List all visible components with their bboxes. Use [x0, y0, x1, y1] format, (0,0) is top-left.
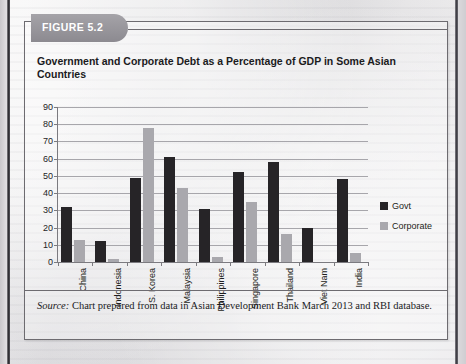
y-axis-tick-label: 80: [43, 119, 53, 129]
x-axis-tick: [161, 262, 162, 266]
figure-tab-rule: [128, 29, 448, 30]
bar-govt: [268, 162, 279, 262]
bar-govt: [233, 172, 244, 262]
bar-corporate: [350, 253, 361, 262]
source-label: Source:: [37, 300, 69, 311]
x-axis-tick: [92, 262, 93, 266]
bar-corporate: [212, 257, 223, 262]
x-axis-tick: [196, 262, 197, 266]
bar-group: China: [58, 107, 92, 262]
bar-govt: [164, 157, 175, 262]
source-divider: [25, 290, 447, 291]
legend-label: Corporate: [392, 221, 432, 231]
y-axis-tick-label: 0: [48, 257, 53, 267]
source-text: Chart prepared from data in Asian Develo…: [69, 300, 432, 311]
x-axis-label: S. Korea: [147, 268, 157, 303]
x-axis-label: Thailand: [285, 268, 295, 303]
bar-corporate: [246, 202, 257, 262]
bar-group: S. Korea: [127, 107, 161, 262]
x-axis-tick: [230, 262, 231, 266]
legend-label: Govt: [392, 201, 411, 211]
legend-item: Corporate: [380, 221, 432, 231]
x-axis-tick: [334, 262, 335, 266]
y-axis-tick-label: 30: [43, 205, 53, 215]
legend-item: Govt: [380, 201, 432, 211]
bar-corporate: [74, 240, 85, 262]
bar-group: Viet Nam: [299, 107, 333, 262]
bar-corporate: [177, 188, 188, 262]
book-gutter-shadow: [7, 0, 10, 364]
x-axis-tick: [299, 262, 300, 266]
bar-govt: [61, 207, 72, 262]
y-axis-tick-label: 10: [43, 240, 53, 250]
bar-corporate: [108, 259, 119, 262]
bar-group: Indonesia: [92, 107, 126, 262]
x-axis-tick: [368, 262, 369, 266]
y-axis-tick-label: 50: [43, 171, 53, 181]
bar-group: Philippines: [196, 107, 230, 262]
x-axis-label: India: [354, 268, 364, 288]
bar-group: Malaysia: [161, 107, 195, 262]
book-gutter-light: [0, 0, 7, 364]
chart-legend: GovtCorporate: [380, 201, 432, 241]
page-right-margin: [458, 0, 466, 364]
figure-number-label: FIGURE 5.2: [42, 21, 103, 33]
x-axis-tick: [127, 262, 128, 266]
y-axis-tick-label: 70: [43, 136, 53, 146]
bar-govt: [95, 241, 106, 262]
y-axis-tick-label: 40: [43, 188, 53, 198]
x-axis-tick: [265, 262, 266, 266]
book-page: FIGURE 5.2 Government and Corporate Debt…: [0, 0, 466, 364]
bar-corporate: [143, 128, 154, 262]
x-axis-label: China: [78, 268, 88, 292]
bar-group: Thailand: [265, 107, 299, 262]
bar-govt: [337, 179, 348, 262]
y-axis-tick-label: 90: [43, 102, 53, 112]
bar-group: India: [334, 107, 368, 262]
chart-plot-area: 0102030405060708090ChinaIndonesiaS. Kore…: [57, 107, 368, 263]
bar-corporate: [281, 234, 292, 262]
bar-govt: [199, 209, 210, 262]
bar-govt: [302, 228, 313, 262]
legend-swatch-govt: [380, 202, 388, 210]
source-note: Source: Chart prepared from data in Asia…: [37, 299, 437, 312]
bar-govt: [130, 178, 141, 262]
legend-swatch-corporate: [380, 222, 388, 230]
chart-title: Government and Corporate Debt as a Perce…: [37, 55, 429, 81]
x-axis-tick: [58, 262, 59, 266]
bar-group: Singapore: [230, 107, 264, 262]
y-axis-tick-label: 20: [43, 223, 53, 233]
y-axis-tick-label: 60: [43, 154, 53, 164]
